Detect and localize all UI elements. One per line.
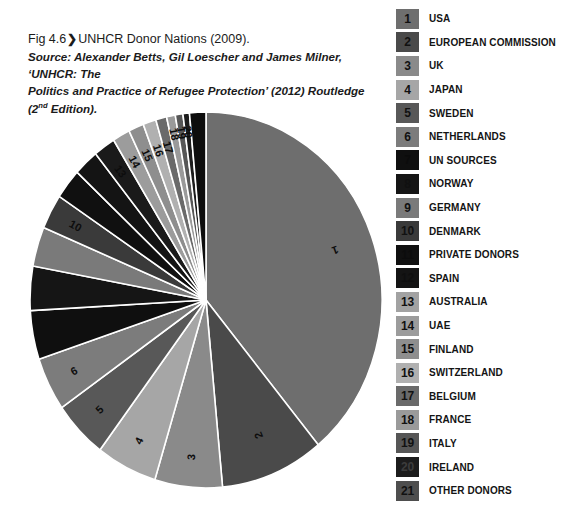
legend-swatch-number: 21 (401, 485, 414, 497)
legend-item-label: FRANCE (429, 414, 471, 425)
legend-item-belgium[interactable]: 17BELGIUM (396, 385, 572, 409)
legend-item-label: UK (429, 60, 444, 71)
legend-swatch: 7 (396, 150, 419, 170)
legend-swatch-number: 4 (404, 84, 410, 96)
legend-swatch: 9 (396, 198, 419, 218)
legend-item-label: SPAIN (429, 273, 459, 284)
legend-swatch-number: 16 (401, 367, 414, 379)
legend-swatch-number: 20 (401, 461, 414, 473)
legend-item-uk[interactable]: 3UK (396, 54, 572, 78)
pie-chart-svg: 12345610131415161718192021 (30, 112, 382, 492)
legend-item-label: JAPAN (429, 84, 463, 95)
legend-item-spain[interactable]: 12SPAIN (396, 267, 572, 291)
legend-swatch-number: 10 (401, 225, 414, 237)
legend-swatch: 2 (396, 32, 419, 52)
legend-item-label: USA (429, 13, 450, 24)
legend-item-france[interactable]: 18FRANCE (396, 408, 572, 432)
legend-swatch-number: 17 (401, 390, 414, 402)
legend-item-usa[interactable]: 1USA (396, 7, 572, 31)
legend-swatch: 10 (396, 221, 419, 241)
legend-item-switzerland[interactable]: 16SWITZERLAND (396, 361, 572, 385)
legend-swatch: 13 (396, 292, 419, 312)
pie-slice-label-3: 3 (185, 453, 198, 460)
pie-slice-label-21: 21 (193, 136, 206, 149)
legend: 1USA2EUROPEAN COMMISSION3UK4JAPAN5SWEDEN… (396, 7, 572, 502)
legend-swatch: 20 (396, 457, 419, 477)
figure-title-text: UNHCR Donor Nations (2009). (78, 32, 250, 46)
legend-item-finland[interactable]: 15FINLAND (396, 337, 572, 361)
legend-swatch: 17 (396, 386, 419, 406)
legend-item-label: UAE (429, 320, 450, 331)
legend-item-label: GERMANY (429, 202, 481, 213)
legend-item-un-sources[interactable]: 7UN SOURCES (396, 149, 572, 173)
legend-swatch: 19 (396, 433, 419, 453)
legend-swatch: 8 (396, 174, 419, 194)
figure-number: Fig 4.6 (28, 32, 66, 46)
legend-item-label: EUROPEAN COMMISSION (429, 37, 556, 48)
legend-swatch-number: 11 (401, 249, 413, 261)
legend-swatch-number: 14 (401, 320, 414, 332)
legend-swatch: 16 (396, 363, 419, 383)
legend-item-sweden[interactable]: 5SWEDEN (396, 101, 572, 125)
legend-item-other-donors[interactable]: 21OTHER DONORS (396, 479, 572, 503)
legend-item-label: SWEDEN (429, 108, 474, 119)
figure-source-superscript: nd (38, 101, 47, 110)
legend-swatch-number: 15 (401, 343, 414, 355)
legend-swatch-number: 1 (404, 13, 410, 25)
pie-slice-group (30, 112, 382, 488)
legend-swatch: 1 (396, 9, 419, 29)
legend-swatch-number: 5 (404, 107, 410, 119)
legend-swatch: 21 (396, 481, 419, 501)
legend-swatch-number: 3 (404, 60, 410, 72)
legend-swatch-number: 6 (404, 131, 410, 143)
legend-swatch-number: 18 (401, 414, 414, 426)
legend-item-italy[interactable]: 19ITALY (396, 432, 572, 456)
figure-source: Source: Alexander Betts, Gil Loescher an… (28, 49, 378, 117)
legend-item-private-donors[interactable]: 11PRIVATE DONORS (396, 243, 572, 267)
legend-item-germany[interactable]: 9GERMANY (396, 196, 572, 220)
legend-swatch: 12 (396, 268, 419, 288)
legend-item-australia[interactable]: 13AUSTRALIA (396, 290, 572, 314)
figure-title-line: Fig 4.6❯UNHCR Donor Nations (2009). (28, 30, 378, 48)
legend-item-label: BELGIUM (429, 391, 476, 402)
legend-swatch: 15 (396, 339, 419, 359)
legend-swatch-number: 7 (404, 154, 410, 166)
legend-swatch: 5 (396, 103, 419, 123)
chevron-right-icon: ❯ (66, 32, 78, 46)
legend-item-denmark[interactable]: 10DENMARK (396, 219, 572, 243)
legend-item-label: UN SOURCES (429, 155, 497, 166)
legend-item-ireland[interactable]: 20IRELAND (396, 455, 572, 479)
legend-swatch-number: 12 (401, 272, 414, 284)
legend-item-japan[interactable]: 4JAPAN (396, 78, 572, 102)
legend-swatch: 18 (396, 410, 419, 430)
legend-item-label: NETHERLANDS (429, 131, 506, 142)
legend-item-european-commission[interactable]: 2EUROPEAN COMMISSION (396, 31, 572, 55)
legend-swatch-number: 13 (401, 296, 414, 308)
legend-item-uae[interactable]: 14UAE (396, 314, 572, 338)
legend-item-label: IRELAND (429, 462, 474, 473)
legend-item-label: OTHER DONORS (429, 485, 512, 496)
figure-source-line-1: Source: Alexander Betts, Gil Loescher an… (28, 50, 342, 80)
figure-caption: Fig 4.6❯UNHCR Donor Nations (2009). Sour… (28, 30, 378, 117)
legend-swatch: 3 (396, 56, 419, 76)
legend-swatch-number: 9 (404, 202, 410, 214)
legend-swatch: 4 (396, 80, 419, 100)
legend-swatch: 11 (396, 245, 419, 265)
legend-item-norway[interactable]: 8NORWAY (396, 172, 572, 196)
legend-swatch: 6 (396, 127, 419, 147)
pie-chart: 12345610131415161718192021 (30, 112, 382, 492)
legend-item-label: NORWAY (429, 178, 474, 189)
legend-item-label: PRIVATE DONORS (429, 249, 519, 260)
legend-swatch-number: 19 (401, 437, 414, 449)
legend-swatch: 14 (396, 316, 419, 336)
legend-item-label: AUSTRALIA (429, 296, 488, 307)
legend-swatch-number: 8 (404, 178, 410, 190)
legend-item-label: DENMARK (429, 226, 481, 237)
legend-item-label: FINLAND (429, 344, 474, 355)
legend-swatch-number: 2 (404, 36, 410, 48)
legend-item-label: ITALY (429, 438, 457, 449)
legend-item-netherlands[interactable]: 6NETHERLANDS (396, 125, 572, 149)
legend-item-label: SWITZERLAND (429, 367, 503, 378)
